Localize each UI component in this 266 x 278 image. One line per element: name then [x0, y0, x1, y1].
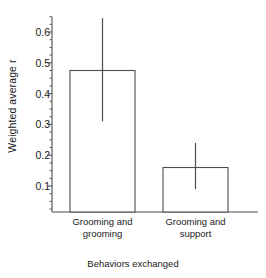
chart-figure: Weighted average r 0.10.20.30.40.50.6 Gr…: [0, 0, 266, 278]
x-axis-tick-label-line: Grooming and: [165, 216, 225, 227]
x-axis-tick-label: Grooming andsupport: [146, 216, 246, 240]
x-axis-tick-label-line: support: [146, 228, 246, 240]
x-axis-tick-label-line: grooming: [53, 228, 153, 240]
x-axis-tick-labels: Grooming andgroomingGrooming andsupport: [0, 216, 266, 260]
x-axis-title: Behaviors exchanged: [0, 258, 266, 269]
x-axis-tick-label-line: Grooming and: [72, 216, 132, 227]
x-axis-tick-label: Grooming andgrooming: [53, 216, 153, 240]
